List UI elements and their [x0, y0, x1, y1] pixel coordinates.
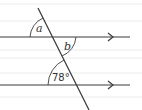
angle-a-label: a [36, 22, 43, 35]
parallel-lines-diagram: a b 78° [0, 0, 142, 110]
angle-b-label: b [64, 40, 71, 53]
angle-78-label: 78° [52, 72, 70, 83]
transversal-line [38, 8, 89, 110]
